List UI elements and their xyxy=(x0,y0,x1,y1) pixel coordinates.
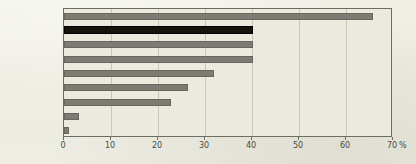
axis-tick-label: 10 xyxy=(105,141,115,150)
bar xyxy=(64,127,69,134)
axis-tick xyxy=(63,137,64,140)
bar xyxy=(64,56,253,63)
bar xyxy=(64,26,253,34)
axis-tick-label: 50 xyxy=(293,141,303,150)
bar-row xyxy=(64,9,393,23)
bar-row xyxy=(64,66,393,80)
bar-row xyxy=(64,52,393,66)
axis-unit-label: % xyxy=(399,141,407,150)
bar-row xyxy=(64,124,393,138)
axis-tick xyxy=(110,137,111,140)
axis-tick xyxy=(251,137,252,140)
bar-row xyxy=(64,109,393,123)
bar-row xyxy=(64,23,393,37)
bar xyxy=(64,70,214,77)
axis-tick-label: 30 xyxy=(199,141,209,150)
axis-tick-label: 40 xyxy=(246,141,256,150)
plot-area xyxy=(63,8,392,137)
bar xyxy=(64,13,373,20)
bar-row xyxy=(64,38,393,52)
axis-tick-label: 60 xyxy=(340,141,350,150)
axis-tick xyxy=(345,137,346,140)
bar xyxy=(64,84,188,91)
bar xyxy=(64,41,253,48)
bar xyxy=(64,99,171,106)
bar xyxy=(64,113,79,120)
axis-tick-label: 0 xyxy=(60,141,65,150)
axis-tick-label: 20 xyxy=(152,141,162,150)
axis-tick-label: 70 xyxy=(387,141,397,150)
axis-tick xyxy=(204,137,205,140)
bar-row xyxy=(64,95,393,109)
bar-chart: ベトナムタイミャンマーカンボジアインドネシア中国マレーシア韓国日本 010203… xyxy=(0,0,416,164)
axis-tick xyxy=(392,137,393,140)
bar-row xyxy=(64,81,393,95)
axis-tick xyxy=(298,137,299,140)
axis-tick xyxy=(157,137,158,140)
